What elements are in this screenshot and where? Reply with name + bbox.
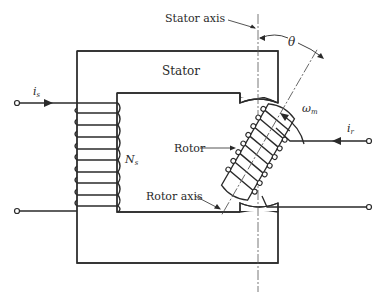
omega-m-label: ωm bbox=[302, 103, 318, 116]
omega-symbol: ω bbox=[302, 102, 311, 115]
is-arrow-icon bbox=[44, 99, 53, 107]
rotor-terminal-top[interactable] bbox=[367, 139, 372, 144]
ir-subscript: r bbox=[351, 128, 354, 136]
rotor-lead-top bbox=[276, 128, 369, 141]
stator-axis-label: Stator axis bbox=[165, 13, 225, 24]
stator-label: Stator bbox=[162, 65, 200, 77]
rotor-label: Rotor bbox=[174, 143, 205, 154]
ir-arrow-icon bbox=[332, 137, 341, 145]
stator-terminal-bottom[interactable] bbox=[15, 209, 20, 214]
omega-subscript: m bbox=[311, 108, 318, 116]
is-subscript: s bbox=[37, 91, 41, 99]
ns-symbol: N bbox=[125, 153, 135, 166]
ns-subscript: s bbox=[135, 159, 139, 167]
theta-label: θ bbox=[288, 36, 295, 48]
ns-label: Ns bbox=[125, 154, 138, 167]
stator-coil bbox=[17, 103, 120, 212]
rotor bbox=[205, 40, 334, 224]
is-label: is bbox=[33, 86, 40, 99]
stator-terminal-top[interactable] bbox=[15, 101, 20, 106]
theta-arrow-left-icon bbox=[259, 35, 265, 41]
rotor-axis-label: Rotor axis bbox=[146, 191, 203, 202]
ir-label: ir bbox=[347, 123, 354, 136]
rotor-terminal-bottom[interactable] bbox=[367, 205, 372, 210]
